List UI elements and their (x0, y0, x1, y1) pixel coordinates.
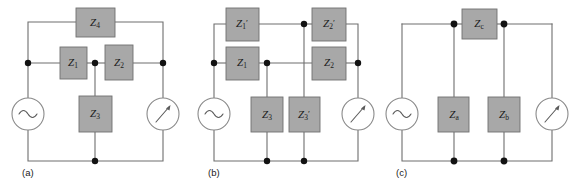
meter-b[interactable] (342, 98, 374, 130)
impedance-Z1-a[interactable]: Z1 (60, 47, 87, 79)
wires-c (402, 24, 552, 161)
nodes-b (211, 21, 361, 164)
impedance-Z2prime-b[interactable]: Z2′ (312, 8, 346, 41)
node-bottom-left-c (451, 158, 458, 165)
node-top-left-c (451, 21, 458, 28)
impedance-Z2-b[interactable]: Z2 (312, 47, 346, 80)
circuit-panel-a: Z4 Z1 Z2 Z3 (0, 0, 191, 187)
panel-caption-a: (a) (22, 167, 34, 178)
node-bottom-center-a (92, 158, 98, 164)
circuit-panel-c: Zc Za Zb (382, 0, 573, 187)
nodes-c (451, 21, 508, 165)
node-left-mid-a (25, 60, 31, 66)
impedance-Zb-c[interactable]: Zb (488, 97, 520, 132)
wires-b (214, 24, 358, 161)
node-top-center-b (301, 21, 307, 27)
circuit-diagram-a: Z4 Z1 Z2 Z3 (0, 0, 191, 187)
node-bottom-right-b (301, 158, 307, 164)
panel-caption-c: (c) (396, 167, 407, 178)
node-top-right-c (501, 21, 508, 28)
node-center-left-mid-b (264, 60, 270, 66)
ac-source-a[interactable] (12, 98, 44, 130)
meter-a[interactable] (147, 98, 179, 130)
ac-source-c[interactable] (386, 98, 418, 130)
impedance-Z4-a[interactable]: Z4 (76, 8, 115, 37)
circuit-diagram-b: Z1′ Z2′ Z1 Z2 Z3 Z3′ (191, 0, 382, 187)
circuit-diagram-c: Zc Za Zb (382, 0, 573, 187)
impedance-Z3-b[interactable]: Z3 (251, 97, 283, 132)
panel-caption-b: (b) (208, 167, 220, 178)
impedance-Z3prime-b[interactable]: Z3′ (289, 97, 320, 132)
impedance-Zc-c[interactable]: Zc (462, 9, 497, 39)
impedance-Za-c[interactable]: Za (438, 97, 469, 132)
figure-root: Z4 Z1 Z2 Z3 (0, 0, 573, 187)
node-right-mid-a (160, 60, 166, 66)
impedance-Z1-b[interactable]: Z1 (226, 47, 259, 80)
impedance-Z1prime-b[interactable]: Z1′ (226, 8, 259, 41)
impedance-Z3-a[interactable]: Z3 (79, 96, 112, 132)
node-left-mid-b (211, 60, 217, 66)
node-center-mid-a (92, 60, 98, 66)
node-bottom-right-c (501, 158, 508, 165)
wires-a (28, 22, 163, 161)
meter-c[interactable] (536, 98, 568, 130)
node-bottom-left-b (264, 158, 270, 164)
ac-source-b[interactable] (198, 98, 230, 130)
impedance-Z2-a[interactable]: Z2 (105, 45, 133, 80)
circuit-panel-b: Z1′ Z2′ Z1 Z2 Z3 Z3′ (191, 0, 382, 187)
node-right-mid-b (355, 60, 361, 66)
